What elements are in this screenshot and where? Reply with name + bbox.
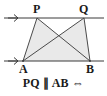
geometry-figure-page: P Q A B PQ ∥ AB ⇔ [0, 0, 107, 96]
top-line-arrow-icon [8, 15, 18, 22]
vertex-label-A: A [19, 63, 28, 75]
figure-caption: PQ ∥ AB ⇔ [0, 76, 107, 91]
vertex-label-Q: Q [79, 3, 88, 15]
vertex-label-B: B [86, 63, 94, 75]
bottom-line-arrow-icon [8, 58, 18, 65]
vertex-label-P: P [33, 3, 40, 15]
